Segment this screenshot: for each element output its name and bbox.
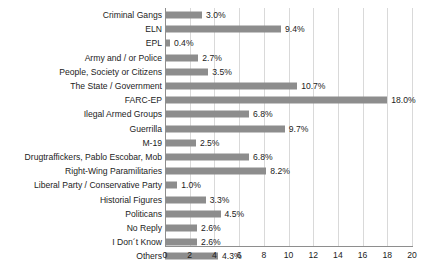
- category-label: Drugtraffickers, Pablo Escobar, Mob: [25, 152, 162, 162]
- bar-row: No Reply2.6%: [165, 221, 412, 235]
- bar-row: Historial Figures3.3%: [165, 192, 412, 206]
- x-tick-label: 20: [407, 249, 417, 261]
- bar-row: EPL0.4%: [165, 36, 412, 50]
- bar: [165, 139, 196, 146]
- x-tick-label: 8: [261, 249, 266, 261]
- bar-row: Politicans4.5%: [165, 207, 412, 221]
- bar-value-label: 8.2%: [270, 166, 290, 176]
- bar-value-label: 3.3%: [210, 195, 230, 205]
- bar: [165, 168, 266, 175]
- category-label: No Reply: [127, 223, 162, 233]
- bar: [165, 153, 249, 160]
- category-label: Ilegal Armed Groups: [84, 109, 162, 119]
- category-label: Army and / or Police: [85, 53, 162, 63]
- plot-area: Criminal Gangs3.0%ELN9.4%EPL0.4%Army and…: [165, 8, 412, 246]
- x-tick-label: 16: [358, 249, 368, 261]
- bar-row: FARC-EP18.0%: [165, 93, 412, 107]
- x-tick-label: 10: [284, 249, 294, 261]
- bar-row: Drugtraffickers, Pablo Escobar, Mob6.8%: [165, 150, 412, 164]
- bar-value-label: 6.8%: [253, 152, 273, 162]
- bar-value-label: 0.4%: [174, 38, 194, 48]
- bar: [165, 54, 198, 61]
- category-label: I Don´t Know: [112, 237, 162, 247]
- bar-row: Criminal Gangs3.0%: [165, 8, 412, 22]
- x-tick-label: 14: [333, 249, 343, 261]
- x-tick-label: 2: [187, 249, 192, 261]
- gridline-20: [412, 8, 413, 246]
- bar: [165, 83, 297, 90]
- category-label: M-19: [142, 138, 162, 148]
- bar-row: People, Society or Citizens3.5%: [165, 65, 412, 79]
- category-label: Politicans: [125, 209, 162, 219]
- category-label: Liberal Party / Conservative Party: [34, 180, 162, 190]
- bar-value-label: 9.7%: [289, 124, 309, 134]
- bar: [165, 68, 208, 75]
- bar-row: Liberal Party / Conservative Party1.0%: [165, 178, 412, 192]
- category-label: FARC-EP: [125, 95, 162, 105]
- bar: [165, 111, 249, 118]
- bar-row: Ilegal Armed Groups6.8%: [165, 107, 412, 121]
- x-tick-label: 4: [212, 249, 217, 261]
- category-label: ELN: [145, 24, 162, 34]
- bar-value-label: 10.7%: [301, 81, 325, 91]
- bar: [165, 12, 202, 19]
- bar-row: The State / Government10.7%: [165, 79, 412, 93]
- bar-row: ELN9.4%: [165, 22, 412, 36]
- bar: [165, 210, 221, 217]
- bar-value-label: 18.0%: [391, 95, 415, 105]
- bar: [165, 182, 177, 189]
- x-tick-label: 12: [308, 249, 318, 261]
- x-tick-label: 6: [237, 249, 242, 261]
- x-tick-label: 0: [163, 249, 168, 261]
- category-label: Right-Wing Paramilitaries: [65, 166, 162, 176]
- category-label: EPL: [146, 38, 162, 48]
- bar-row: I Don´t Know2.6%: [165, 235, 412, 249]
- bar-value-label: 6.8%: [253, 109, 273, 119]
- category-label: Historial Figures: [100, 195, 162, 205]
- bar-value-label: 4.5%: [225, 209, 245, 219]
- bar-value-label: 2.6%: [201, 223, 221, 233]
- bar-row: Guerrilla9.7%: [165, 122, 412, 136]
- x-tick-label: 18: [383, 249, 393, 261]
- bar-row: Right-Wing Paramilitaries8.2%: [165, 164, 412, 178]
- x-axis-line: [165, 246, 413, 247]
- bar-chart: Criminal Gangs3.0%ELN9.4%EPL0.4%Army and…: [0, 0, 428, 267]
- bar: [165, 239, 197, 246]
- bar: [165, 26, 281, 33]
- bar-row: M-192.5%: [165, 136, 412, 150]
- bar-value-label: 1.0%: [181, 180, 201, 190]
- bar-rows: Criminal Gangs3.0%ELN9.4%EPL0.4%Army and…: [165, 8, 412, 263]
- bar: [165, 125, 285, 132]
- category-label: Guerrilla: [130, 124, 162, 134]
- category-label: The State / Government: [70, 81, 162, 91]
- bar: [165, 196, 206, 203]
- bar-value-label: 3.0%: [206, 10, 226, 20]
- category-label: Criminal Gangs: [103, 10, 162, 20]
- bar: [165, 97, 387, 104]
- bar-value-label: 2.5%: [200, 138, 220, 148]
- category-label: Others: [136, 251, 162, 261]
- bar-row: Army and / or Police2.7%: [165, 51, 412, 65]
- bar-value-label: 2.7%: [202, 53, 222, 63]
- bar-value-label: 9.4%: [285, 24, 305, 34]
- bar: [165, 224, 197, 231]
- bar-value-label: 3.5%: [212, 67, 232, 77]
- bar: [165, 40, 170, 47]
- chart-title: [0, 0, 428, 2]
- category-label: People, Society or Citizens: [59, 67, 162, 77]
- x-axis-ticks: 02468101214161820: [165, 249, 412, 263]
